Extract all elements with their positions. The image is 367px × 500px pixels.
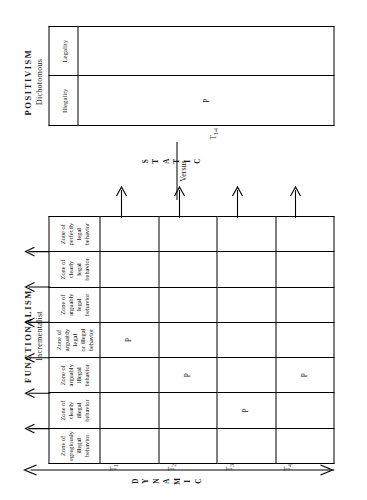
- cell-t1-arguably-legal-or-illegal: P: [100, 322, 159, 357]
- cell-t3-egregiously-illegal: [217, 428, 276, 463]
- dynamic-letter-0: D: [130, 474, 140, 488]
- cell-t3-arguably-legal-or-illegal: [217, 322, 276, 357]
- timeline-label-t4: T4: [282, 464, 292, 486]
- zone-header-arguably-illegal: Zone of arguably illegal behavior: [49, 358, 100, 393]
- zone-header-line: Zone of: [58, 218, 66, 250]
- dynamic-letter-6: C: [193, 474, 203, 488]
- zone-header-line: Zone of: [58, 359, 66, 391]
- cell-t2-arguably-legal-or-illegal: [158, 322, 217, 357]
- zone-header-line: arguably: [66, 289, 74, 321]
- static-letter-4: I: [182, 154, 192, 168]
- table-row: P: [275, 217, 334, 464]
- zone-header-line: clearly: [66, 394, 74, 426]
- cell-t2-arguably-illegal: P: [158, 358, 217, 393]
- positivism-title: POSITIVISM: [22, 0, 32, 164]
- static-axis-word: S T A T I C: [140, 154, 203, 168]
- t2-sub: 2: [170, 464, 176, 467]
- zone-header-line: behavior: [82, 289, 90, 321]
- cell-t4-clearly-illegal: [275, 393, 334, 428]
- zone-header-line: illegal: [74, 359, 82, 391]
- cell-t4-arguably-legal: [275, 287, 334, 322]
- cell-t3-clearly-legal: [217, 252, 276, 287]
- cell-t1-arguably-legal: [100, 287, 159, 322]
- cell-t4-arguably-illegal: P: [275, 358, 334, 393]
- t3-letter: T: [224, 467, 233, 472]
- position-marker-t3: P: [241, 409, 249, 413]
- zone-header-line: legal: [74, 218, 82, 250]
- zone-header-line: illegal: [74, 430, 82, 462]
- zone-header-clearly-legal: Zone of clearly legal behavior: [49, 252, 100, 287]
- functionalism-zone-grid: Zone of egregiously illegal behavior Zon…: [48, 216, 334, 464]
- positivism-grid: Illegality Legality P: [48, 26, 334, 126]
- cell-t1-perfectly-legal: [100, 217, 159, 252]
- functionalism-panel: FUNCTIONALISM Incrementalist: [22, 186, 354, 486]
- cell-t1-4-illegality: P: [78, 76, 334, 126]
- cell-t3-clearly-illegal: P: [217, 393, 276, 428]
- cell-t4-clearly-legal: [275, 252, 334, 287]
- dynamic-axis-word: D Y N A M I C: [130, 474, 203, 488]
- positivism-header-illegality: Illegality: [49, 76, 78, 126]
- timeline-label-t1: T1: [108, 464, 118, 486]
- positivism-header-row: Illegality Legality: [49, 27, 78, 126]
- zone-header-line: behavior: [82, 253, 90, 285]
- zone-header-line: clearly: [66, 253, 74, 285]
- cell-t4-arguably-legal-or-illegal: [275, 322, 334, 357]
- position-marker-t4: P: [300, 373, 308, 377]
- zone-header-line: Zone of: [58, 430, 66, 462]
- t1-letter: T: [108, 467, 117, 472]
- position-marker-t1-4: P: [202, 99, 210, 103]
- zone-header-line: behavior: [82, 218, 90, 250]
- zone-boundary-arrows: [22, 216, 50, 464]
- zone-header-line: behavior: [82, 359, 90, 391]
- t3-sub: 3: [228, 464, 234, 467]
- cell-t3-arguably-illegal: [217, 358, 276, 393]
- cell-t1-egregiously-illegal: [100, 428, 159, 463]
- table-row: P: [78, 27, 334, 126]
- positivism-timeline-labels: T1-4: [48, 128, 334, 152]
- table-row: P: [158, 217, 217, 464]
- cell-t2-egregiously-illegal: [158, 428, 217, 463]
- zone-header-line: egregiously: [66, 430, 74, 462]
- static-letter-3: T: [171, 154, 181, 168]
- zone-header-line: arguably legal: [62, 324, 78, 356]
- static-letter-5: C: [192, 154, 202, 168]
- positivism-grid-wrapper: Illegality Legality P: [48, 26, 334, 126]
- zone-header-perfectly-legal: Zone of perfectly legal behavior: [49, 217, 100, 252]
- cell-t2-clearly-legal: [158, 252, 217, 287]
- cell-t4-perfectly-legal: [275, 217, 334, 252]
- zone-header-arguably-legal-or-illegal: Zone of arguably legal or illegal behavi…: [49, 322, 100, 357]
- zone-header-line: behavior: [86, 324, 94, 356]
- cell-t3-perfectly-legal: [217, 217, 276, 252]
- zone-header-line: legal: [74, 289, 82, 321]
- zone-header-line: illegal: [74, 394, 82, 426]
- zone-header-line: Zone of: [58, 253, 66, 285]
- cell-t3-arguably-legal: [217, 287, 276, 322]
- zone-header-egregiously-illegal: Zone of egregiously illegal behavior: [49, 428, 100, 463]
- static-letter-0: S: [140, 154, 150, 168]
- t1-sub: 1: [112, 464, 118, 467]
- zone-header-row: Zone of egregiously illegal behavior Zon…: [49, 217, 100, 464]
- t1-4-sub: 1-4: [212, 128, 218, 135]
- t1-4-letter: T: [208, 135, 217, 140]
- cell-t2-clearly-illegal: [158, 393, 217, 428]
- timeline-arrows: [48, 184, 334, 218]
- position-marker-t2: P: [183, 373, 191, 377]
- zone-header-line: or illegal: [78, 324, 86, 356]
- zone-header-line: behavior: [82, 430, 90, 462]
- zone-header-line: Zone of: [58, 289, 66, 321]
- zone-header-clearly-illegal: Zone of clearly illegal behavior: [49, 393, 100, 428]
- static-letter-2: A: [161, 154, 171, 168]
- positivism-panel: POSITIVISM Dichotomous Illegality Legali…: [22, 16, 354, 148]
- t4-letter: T: [282, 467, 291, 472]
- t2-letter: T: [166, 467, 175, 472]
- dynamic-letter-1: Y: [140, 474, 150, 488]
- zone-header-line: legal: [74, 253, 82, 285]
- cell-t1-arguably-illegal: [100, 358, 159, 393]
- positivism-subtitle: Dichotomous: [34, 0, 43, 164]
- figure-upright-container: FUNCTIONALISM Incrementalist: [0, 0, 367, 500]
- zone-header-line: Zone of: [54, 324, 62, 356]
- zone-header-line: behavior: [82, 394, 90, 426]
- positivism-header-legality: Legality: [49, 27, 78, 77]
- cell-t4-egregiously-illegal: [275, 428, 334, 463]
- cell-t2-perfectly-legal: [158, 217, 217, 252]
